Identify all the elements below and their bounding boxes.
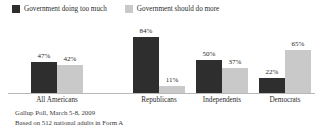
bar-item[interactable]: 11%: [159, 20, 185, 93]
x-axis-baseline: [8, 93, 315, 94]
category-label: All Americans: [7, 95, 107, 105]
bar[interactable]: [222, 68, 248, 93]
chart-footnote: Gallup Poll, March 5-8, 2009 Based on 51…: [15, 108, 123, 127]
bar-value-label: 65%: [292, 40, 305, 49]
bar[interactable]: [259, 78, 285, 93]
bar-value-label: 42%: [64, 55, 77, 64]
bar-item[interactable]: 22%: [259, 20, 285, 93]
footnote-line-1: Gallup Poll, March 5-8, 2009: [15, 108, 123, 118]
legend-label: Government doing too much: [24, 5, 107, 13]
bar-item[interactable]: 42%: [57, 20, 83, 93]
legend-label: Government should do more: [137, 5, 219, 13]
bar-item[interactable]: 50%: [196, 20, 222, 93]
legend-swatch-dark-icon: [12, 5, 20, 13]
chart-legend: Government doing too much Government sho…: [12, 3, 219, 15]
footnote-line-2: Based on 512 national adults in Form A: [15, 118, 123, 128]
bar[interactable]: [159, 86, 185, 93]
legend-item-government-doing-too-much: Government doing too much: [12, 5, 107, 13]
bar-group: 84%11%: [133, 20, 185, 93]
bar-item[interactable]: 84%: [133, 20, 159, 93]
legend-item-government-should-do-more: Government should do more: [125, 5, 219, 13]
bar-value-label: 50%: [203, 50, 216, 59]
bar-group: 50%37%: [196, 20, 248, 93]
bar-value-label: 22%: [266, 68, 279, 77]
bar[interactable]: [196, 60, 222, 93]
bar-value-label: 11%: [166, 76, 179, 85]
category-axis-labels: All AmericansRepublicansIndependentsDemo…: [0, 95, 321, 106]
chart-plot-area: 47%42%84%11%50%37%22%65%: [0, 20, 321, 94]
bar-value-label: 84%: [140, 27, 153, 36]
bar-groups: 47%42%84%11%50%37%22%65%: [0, 20, 321, 93]
bar-group: 47%42%: [31, 20, 83, 93]
bar-group: 22%65%: [259, 20, 311, 93]
bar[interactable]: [57, 65, 83, 93]
bar-item[interactable]: 65%: [285, 20, 311, 93]
bar-item[interactable]: 47%: [31, 20, 57, 93]
bar-pair: 50%37%: [196, 20, 248, 93]
bar-item[interactable]: 37%: [222, 20, 248, 93]
category-label: Democrats: [235, 95, 321, 105]
bar-pair: 22%65%: [259, 20, 311, 93]
legend-swatch-light-icon: [125, 5, 133, 13]
bar-value-label: 47%: [38, 52, 51, 61]
bar[interactable]: [285, 50, 311, 93]
bar-value-label: 37%: [229, 58, 242, 67]
bar[interactable]: [31, 62, 57, 93]
bar-pair: 47%42%: [31, 20, 83, 93]
bar[interactable]: [133, 37, 159, 93]
bar-pair: 84%11%: [133, 20, 185, 93]
